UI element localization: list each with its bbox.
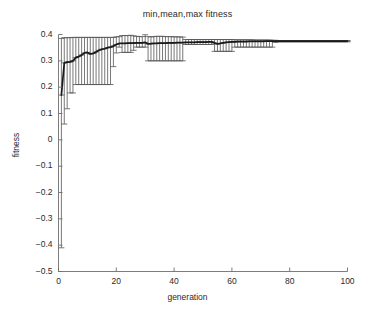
errorbar-series [58, 35, 350, 248]
x-tick-label: 0 [44, 276, 74, 286]
x-tick-label: 20 [101, 276, 131, 286]
figure-canvas: min,mean,max fitness 0.40.30.20.10−0.1−0… [0, 0, 375, 311]
x-tick-label: 60 [217, 276, 247, 286]
y-tick-label: 0.2 [19, 81, 53, 91]
y-tick-label: 0.3 [19, 55, 53, 65]
y-axis-label: fitness [11, 115, 21, 175]
x-axis-label: generation [0, 292, 375, 302]
y-tick-label: 0.4 [19, 29, 53, 39]
x-tick-label: 80 [275, 276, 305, 286]
y-tick-label: −0.4 [19, 239, 53, 249]
plot-area [0, 0, 375, 311]
x-tick-label: 100 [333, 276, 363, 286]
y-tick-label: 0 [19, 134, 53, 144]
y-tick-label: −0.2 [19, 187, 53, 197]
mean-line-series [61, 41, 347, 95]
y-tick-label: −0.1 [19, 160, 53, 170]
y-tick-label: −0.5 [19, 266, 53, 276]
y-tick-label: −0.3 [19, 213, 53, 223]
x-tick-label: 40 [159, 276, 189, 286]
y-tick-label: 0.1 [19, 108, 53, 118]
